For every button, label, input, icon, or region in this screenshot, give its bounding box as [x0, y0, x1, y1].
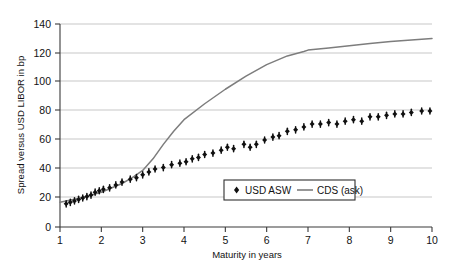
xtick-label-4: 4: [181, 234, 187, 246]
asw-point-marker: [146, 169, 151, 174]
asw-data-point: [248, 144, 253, 150]
asw-point-marker: [293, 127, 298, 132]
asw-data-point: [401, 111, 406, 117]
asw-data-point: [392, 111, 397, 117]
legend-label-usd-asw: USD ASW: [245, 185, 292, 196]
asw-data-point: [384, 112, 389, 118]
xtick-label-2: 2: [98, 234, 104, 246]
asw-point-marker: [392, 111, 397, 116]
x-tick-marks: [60, 227, 432, 232]
asw-data-point: [225, 144, 230, 150]
x-tick-labels: 12345678910: [57, 234, 438, 246]
asw-data-point: [190, 156, 195, 162]
xtick-label-7: 7: [305, 234, 311, 246]
xtick-label-3: 3: [140, 234, 146, 246]
asw-point-marker: [409, 110, 414, 115]
asw-data-point: [177, 160, 182, 166]
asw-point-marker: [359, 119, 364, 124]
ytick-label-20: 20: [39, 191, 51, 203]
asw-data-point: [351, 117, 356, 123]
asw-point-marker: [301, 124, 306, 129]
asw-point-marker: [277, 133, 282, 138]
asw-point-marker: [241, 142, 246, 147]
asw-data-point: [419, 108, 424, 114]
asw-point-marker: [318, 122, 323, 127]
asw-point-marker: [326, 120, 331, 125]
asw-point-marker: [190, 156, 195, 161]
asw-point-marker: [254, 142, 259, 147]
asw-point-marker: [169, 162, 174, 167]
asw-point-marker: [161, 165, 166, 170]
asw-data-point: [169, 162, 174, 168]
cds-ask-line: [60, 39, 432, 203]
asw-point-marker: [153, 167, 158, 172]
asw-point-marker: [334, 122, 339, 127]
xtick-label-5: 5: [222, 234, 228, 246]
asw-data-point: [153, 166, 158, 172]
y-tick-labels: 140 120 100 80 60 40 20 0: [33, 18, 51, 233]
asw-point-marker: [196, 155, 201, 160]
asw-data-point: [80, 195, 85, 201]
asw-data-point: [293, 127, 298, 133]
asw-data-point: [184, 159, 189, 165]
legend-label-cds-ask: CDS (ask): [317, 185, 363, 196]
xtick-label-6: 6: [264, 234, 270, 246]
asw-point-marker: [351, 117, 356, 122]
y-axis-title: Spread versus USD LIBOR in bp: [15, 56, 26, 194]
asw-data-point: [368, 114, 373, 120]
asw-point-marker: [262, 138, 267, 143]
asw-data-point: [277, 133, 282, 139]
chart-figure: 140 120 100 80 60 40 20 0 12345678910 Ma…: [0, 0, 453, 274]
asw-data-point: [359, 118, 364, 124]
ytick-label-100: 100: [33, 75, 51, 87]
asw-point-marker: [248, 145, 253, 150]
ytick-label-80: 80: [39, 104, 51, 116]
asw-point-marker: [368, 114, 373, 119]
asw-point-marker: [84, 194, 89, 199]
asw-data-point: [343, 118, 348, 124]
asw-point-marker: [225, 145, 230, 150]
ytick-label-140: 140: [33, 18, 51, 30]
asw-data-point: [140, 172, 145, 178]
asw-data-point: [84, 193, 89, 199]
asw-point-marker: [210, 151, 215, 156]
xtick-label-1: 1: [57, 234, 63, 246]
spread-vs-libor-chart: 140 120 100 80 60 40 20 0 12345678910 Ma…: [0, 0, 453, 274]
asw-data-point: [301, 124, 306, 130]
asw-point-marker: [285, 129, 290, 134]
xtick-label-8: 8: [346, 234, 352, 246]
asw-point-marker: [177, 161, 182, 166]
asw-point-marker: [384, 113, 389, 118]
asw-point-marker: [427, 109, 432, 114]
asw-point-marker: [343, 119, 348, 124]
asw-data-point: [326, 120, 331, 126]
asw-data-point: [262, 137, 267, 143]
xtick-label-10: 10: [426, 234, 438, 246]
asw-point-marker: [202, 152, 207, 157]
asw-data-point: [241, 141, 246, 147]
grid-lines: [60, 24, 432, 197]
asw-data-point: [128, 176, 133, 182]
asw-point-marker: [184, 159, 189, 164]
ytick-label-40: 40: [39, 162, 51, 174]
asw-data-point: [285, 128, 290, 134]
asw-data-point: [210, 150, 215, 156]
asw-data-point: [202, 151, 207, 157]
legend: USD ASW CDS (ask): [224, 180, 363, 200]
asw-data-point: [376, 114, 381, 120]
asw-data-point: [427, 108, 432, 114]
asw-data-point: [334, 121, 339, 127]
asw-data-point: [231, 146, 236, 152]
asw-data-point: [310, 121, 315, 127]
asw-data-point: [318, 121, 323, 127]
asw-point-marker: [140, 172, 145, 177]
asw-data-point: [219, 147, 224, 153]
ytick-label-60: 60: [39, 133, 51, 145]
asw-point-marker: [401, 111, 406, 116]
asw-data-point: [161, 164, 166, 170]
asw-point-marker: [219, 148, 224, 153]
ytick-label-120: 120: [33, 47, 51, 59]
asw-data-point: [146, 169, 151, 175]
ytick-label-0: 0: [45, 221, 51, 233]
asw-point-marker: [419, 109, 424, 114]
